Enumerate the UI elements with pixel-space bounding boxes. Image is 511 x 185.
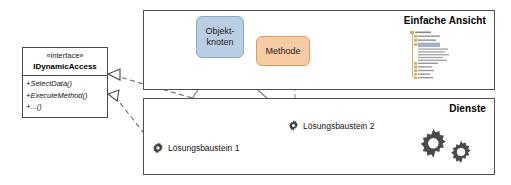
building-block-1: Lösungsbaustein 1 [152, 142, 239, 154]
gear-icon [288, 120, 299, 131]
objektknoten-line1: Objekt- [205, 26, 234, 36]
interface-operations: +SelectData() +ExecuteMethod() +...() [23, 76, 107, 113]
gear-small [451, 141, 471, 163]
interface-class-box: «interface» IDynamicAccess +SelectData()… [22, 47, 108, 118]
node-methode: Methode [256, 36, 310, 66]
building-block-2: Lösungsbaustein 2 [288, 120, 374, 131]
node-methode-label: Methode [265, 46, 300, 57]
node-objektknoten: Objekt- knoten [196, 16, 244, 58]
operation-select-data: +SelectData() [26, 78, 107, 90]
interface-name: IDynamicAccess [23, 61, 107, 72]
gear-large [421, 129, 446, 158]
building-block-1-label: Lösungsbaustein 1 [168, 143, 239, 153]
tree-view-thumbnail [404, 30, 460, 82]
panel-title-dienste: Dienste [449, 103, 486, 114]
interface-header: «interface» IDynamicAccess [23, 48, 107, 76]
objektknoten-line2: knoten [206, 37, 233, 47]
operation-ellipsis: +...() [26, 101, 107, 113]
realization-arrowhead-lower [108, 90, 119, 101]
gears-icon [414, 126, 480, 168]
interface-stereotype: «interface» [23, 51, 107, 61]
operation-execute-method: +ExecuteMethod() [26, 90, 107, 102]
node-objektknoten-label: Objekt- knoten [205, 26, 234, 48]
diagram-canvas: «interface» IDynamicAccess +SelectData()… [0, 0, 511, 185]
realization-arrowhead-upper [108, 69, 120, 80]
gear-icon [152, 142, 164, 154]
building-block-2-label: Lösungsbaustein 2 [303, 121, 374, 131]
panel-title-einfache-ansicht: Einfache Ansicht [404, 15, 486, 26]
